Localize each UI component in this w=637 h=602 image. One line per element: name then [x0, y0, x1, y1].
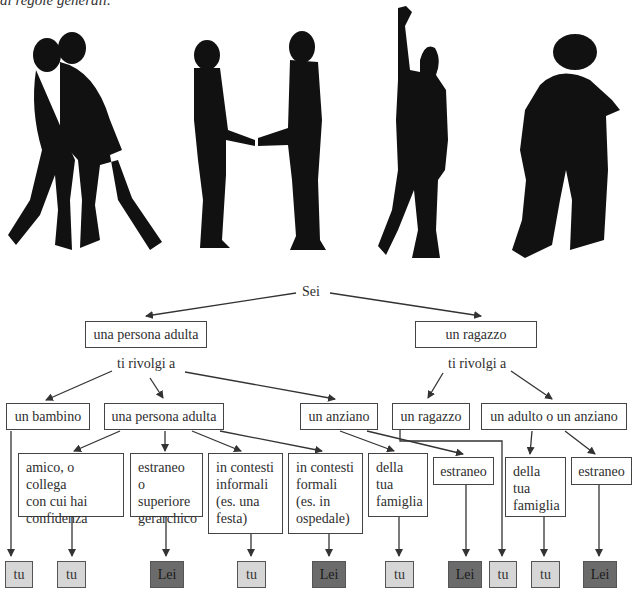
root-sei: Sei: [302, 284, 320, 300]
box-estraneo-1: estraneo: [433, 457, 494, 485]
box-una-persona-adulta-2: una persona adulta: [104, 403, 224, 430]
box-contesti-informali: in contesti informali (es. una festa): [208, 453, 283, 534]
answer-lei: Lei: [583, 561, 617, 588]
answer-lei: Lei: [448, 561, 482, 588]
box-un-anziano: un anziano: [300, 403, 378, 430]
box-della-tua-famiglia-2: della tua famiglia: [505, 457, 566, 517]
answer-tu: tu: [57, 561, 86, 588]
box-una-persona-adulta: una persona adulta: [85, 321, 207, 348]
box-amico-collega: amico, o collega con cui hai confidenza: [18, 453, 124, 517]
box-estraneo-superiore: estraneo o superiore gerarchico: [130, 453, 203, 517]
box-estraneo-2: estraneo: [571, 457, 632, 485]
box-un-adulto-o-un-anziano: un adulto o un anziano: [481, 403, 627, 430]
box-contesti-formali: in contesti formali (es. in ospedale): [288, 453, 363, 534]
answer-tu: tu: [489, 561, 517, 588]
box-un-ragazzo: un ragazzo: [415, 321, 537, 348]
answer-tu: tu: [531, 561, 560, 588]
answer-tu: tu: [385, 561, 414, 588]
prompt-left: ti rivolgi a: [117, 356, 175, 372]
answer-tu: tu: [237, 561, 266, 588]
box-della-tua-famiglia-1: della tua famiglia: [368, 453, 428, 517]
box-un-bambino: un bambino: [6, 403, 90, 430]
prompt-right: ti rivolgi a: [448, 356, 506, 372]
answer-lei: Lei: [312, 561, 346, 588]
answer-tu: tu: [5, 561, 33, 588]
box-un-ragazzo-2: un ragazzo: [392, 403, 470, 430]
answer-lei: Lei: [150, 561, 184, 588]
